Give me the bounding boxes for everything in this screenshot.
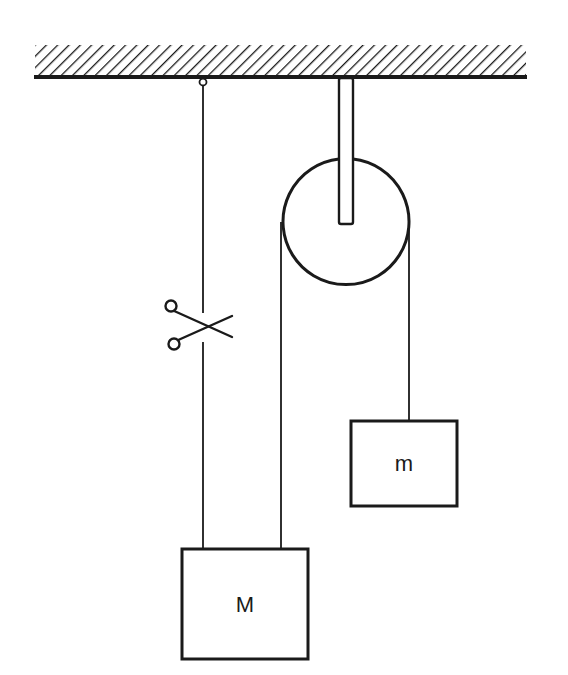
- attachment-loop: [200, 79, 207, 86]
- mass-M: M: [182, 549, 308, 659]
- pulley-diagram: m M: [0, 0, 568, 675]
- scissors-blade-lower: [176, 316, 232, 341]
- scissors-icon: [166, 301, 233, 350]
- pulley-rod: [339, 78, 353, 224]
- mass-M-label: M: [236, 592, 254, 617]
- mass-m: m: [351, 421, 457, 506]
- left-support-string: [200, 79, 207, 550]
- mass-m-label: m: [395, 451, 413, 476]
- scissors-handle-lower: [169, 339, 180, 350]
- scissors-blade-upper: [172, 310, 232, 337]
- ceiling-hatch: [35, 45, 526, 76]
- ceiling: [34, 45, 527, 77]
- scissors-handle-upper: [166, 301, 177, 312]
